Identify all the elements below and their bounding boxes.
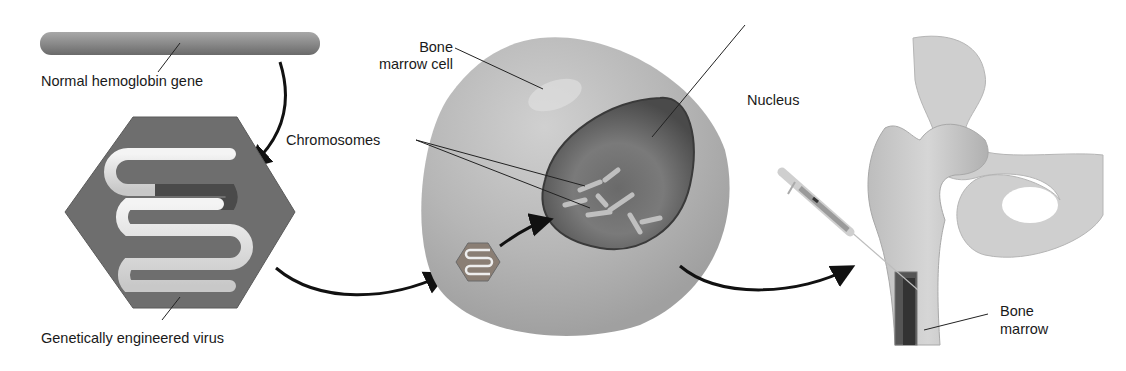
label-bone-marrow-cell-line1: Bone xyxy=(370,39,453,56)
diagram-canvas xyxy=(0,0,1126,371)
label-virus: Genetically engineered virus xyxy=(41,330,224,347)
label-bone-marrow-line1: Bone xyxy=(1000,303,1034,320)
hemoglobin-gene xyxy=(40,32,320,72)
label-chromosomes: Chromosomes xyxy=(286,132,380,149)
genetically-engineered-virus xyxy=(65,117,295,320)
label-bone-marrow-cell-line2: marrow cell xyxy=(370,56,453,73)
label-bone-marrow-line2: marrow xyxy=(1000,321,1048,338)
label-hemoglobin-gene: Normal hemoglobin gene xyxy=(41,73,203,90)
label-nucleus: Nucleus xyxy=(747,92,799,109)
arrow-virus-to-cell xyxy=(276,268,443,295)
